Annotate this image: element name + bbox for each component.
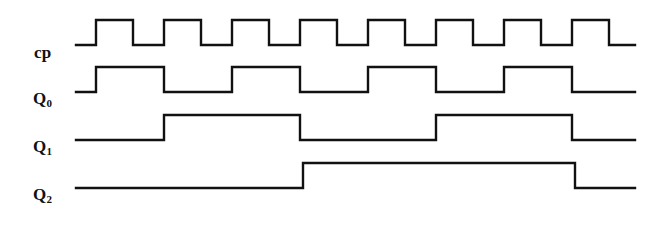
timing-diagram-figure: cp Q0 Q1 Q2 <box>0 0 656 225</box>
timing-waveform-canvas <box>0 0 656 225</box>
signal-label-q2: Q2 <box>33 186 52 203</box>
signal-label-q0-subscript: 0 <box>46 97 52 109</box>
waveform-cp <box>76 20 635 45</box>
signal-label-q0-text: Q <box>33 89 46 108</box>
waveform-q2 <box>76 163 635 188</box>
signal-label-q2-text: Q <box>33 185 46 204</box>
signal-label-q1: Q1 <box>33 138 52 155</box>
signal-label-q2-subscript: 2 <box>46 193 52 205</box>
signal-label-cp: cp <box>34 44 51 61</box>
signal-label-q1-subscript: 1 <box>46 145 52 157</box>
waveform-q0 <box>76 67 635 92</box>
signal-label-cp-text: cp <box>34 43 51 62</box>
waveform-q1 <box>76 115 635 140</box>
signal-label-q1-text: Q <box>33 137 46 156</box>
waveform-group <box>76 20 635 188</box>
signal-label-q0: Q0 <box>33 90 52 107</box>
